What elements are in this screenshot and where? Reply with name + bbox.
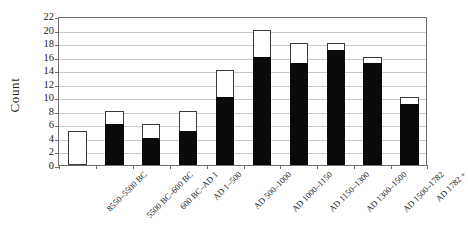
bars-layer: [59, 18, 426, 165]
x-tick-mark: [59, 165, 60, 169]
y-tick-label: 2: [30, 147, 54, 157]
bar-group[interactable]: [400, 16, 418, 165]
x-axis-tick-labels: 8550–5500 BC5500 BC–600 BC600 BC–AD 1AD …: [58, 170, 427, 249]
y-tick-label: 0: [30, 161, 54, 171]
bar-segment-filled[interactable]: [105, 124, 123, 165]
x-tick-mark: [96, 165, 97, 169]
bar-group[interactable]: [105, 16, 123, 165]
x-tick-mark: [170, 165, 171, 169]
bar-segment-filled[interactable]: [327, 50, 345, 165]
x-tick-mark: [280, 165, 281, 169]
x-tick-label: AD 500–1000: [252, 170, 293, 211]
y-tick-label: 10: [30, 93, 54, 103]
bar-segment-filled[interactable]: [400, 104, 418, 165]
bar-segment-filled[interactable]: [142, 138, 160, 165]
bar-group[interactable]: [142, 16, 160, 165]
x-tick-mark: [207, 165, 208, 169]
bar-group[interactable]: [290, 16, 308, 165]
y-axis-title: Count: [6, 50, 24, 140]
x-tick-mark: [133, 165, 134, 169]
y-axis-title-label: Count: [7, 78, 23, 113]
y-tick-label: 18: [30, 39, 54, 49]
bar-segment-filled[interactable]: [179, 131, 197, 165]
x-tick-mark: [391, 165, 392, 169]
x-tick-mark: [317, 165, 318, 169]
y-tick-label: 22: [30, 12, 54, 22]
bar-group[interactable]: [68, 16, 86, 165]
bar-group[interactable]: [327, 16, 345, 165]
x-tick-mark: [244, 165, 245, 169]
bar-segment-open[interactable]: [68, 131, 86, 165]
y-tick-label: 16: [30, 53, 54, 63]
bar-group[interactable]: [216, 16, 234, 165]
bar-segment-filled[interactable]: [290, 63, 308, 165]
x-tick-mark: [427, 165, 428, 169]
y-tick-label: 8: [30, 107, 54, 117]
plot-area: [58, 17, 427, 166]
y-tick-label: 12: [30, 80, 54, 90]
bar-segment-filled[interactable]: [216, 97, 234, 165]
y-tick-label: 6: [30, 120, 54, 130]
x-tick-mark: [354, 165, 355, 169]
bar-segment-filled[interactable]: [363, 63, 381, 165]
y-axis-tick-labels: 0246810121416182022: [30, 17, 54, 166]
y-tick-label: 14: [30, 66, 54, 76]
bar-group[interactable]: [253, 16, 271, 165]
bar-group[interactable]: [363, 16, 381, 165]
bar-segment-filled[interactable]: [253, 57, 271, 165]
y-tick-label: 20: [30, 26, 54, 36]
y-tick-label: 4: [30, 134, 54, 144]
bar-group[interactable]: [179, 16, 197, 165]
x-tick-label: 8550–5500 BC: [106, 170, 149, 213]
